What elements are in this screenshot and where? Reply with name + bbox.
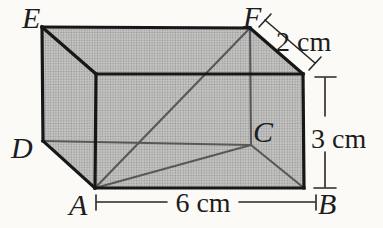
- vertex-label-D: D: [10, 131, 33, 164]
- depth-dim-label: 2 cm: [276, 26, 331, 57]
- vertex-label-C: C: [253, 115, 274, 148]
- edge-CF-hidden: [250, 28, 251, 145]
- vertex-label-F: F: [242, 0, 262, 33]
- vertex-label-A: A: [67, 188, 88, 221]
- edge-EF: [42, 27, 250, 28]
- prism-diagram: E F D C A B 2 cm 3 cm 6 cm: [0, 0, 383, 228]
- edge-left-vertical: [95, 74, 96, 188]
- width-dim-label: 6 cm: [175, 187, 230, 218]
- vertex-label-E: E: [21, 1, 40, 34]
- prism-diagram-canvas: E F D C A B 2 cm 3 cm 6 cm: [0, 0, 383, 228]
- edge-right-vertical: [303, 74, 304, 188]
- height-dim-label: 3 cm: [311, 123, 366, 154]
- edge-DE: [42, 27, 43, 141]
- vertex-label-B: B: [318, 187, 336, 220]
